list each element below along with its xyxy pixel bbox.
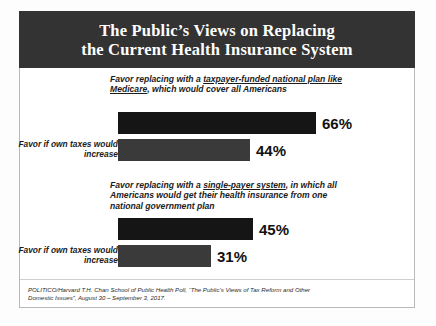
footnote-line-2: Domestic Issues”, August 30 – September … xyxy=(28,294,406,302)
chart-page: The Public’s Views on Replacing the Curr… xyxy=(0,0,436,326)
heading-prefix: Favor replacing with a xyxy=(110,74,203,84)
chart-body: Favor replacing with a taxpayer-funded n… xyxy=(20,68,414,274)
group-heading-medicare: Favor replacing with a taxpayer-funded n… xyxy=(110,74,360,95)
bar-row-single-payer-taxes: Favor if own taxes would increase 31% xyxy=(20,245,414,267)
footnote-divider xyxy=(20,279,414,280)
page-title-line-1: The Public’s Views on Replacing xyxy=(99,21,335,40)
heading-suffix: , which would cover all Americans xyxy=(147,84,287,94)
heading-prefix: Favor replacing with a xyxy=(110,180,203,190)
bar-single-payer-all xyxy=(118,218,253,240)
bar-value-medicare-all: 66% xyxy=(316,115,352,132)
group-heading-single-payer: Favor replacing with a single-payer syst… xyxy=(110,180,360,211)
source-footnote: POLITICO/Harvard T.H. Chan School of Pub… xyxy=(28,286,406,303)
bar-track xyxy=(118,139,318,161)
heading-underlined: single-payer system xyxy=(203,180,286,190)
footnote-line-1: POLITICO/Harvard T.H. Chan School of Pub… xyxy=(28,286,406,294)
row-label-single-payer-taxes: Favor if own taxes would increase xyxy=(0,245,118,265)
bar-row-medicare-taxes: Favor if own taxes would increase 44% xyxy=(20,139,414,161)
bar-track xyxy=(118,112,318,134)
bar-row-single-payer-all: 45% xyxy=(20,218,414,240)
bar-row-medicare-all: 66% xyxy=(20,112,414,134)
chart-title-banner: The Public’s Views on Replacing the Curr… xyxy=(19,11,415,68)
page-title-line-2: the Current Health Insurance System xyxy=(81,40,353,59)
bar-single-payer-taxes xyxy=(118,245,211,267)
bar-value-medicare-taxes: 44% xyxy=(250,142,286,159)
bar-medicare-all xyxy=(118,112,316,134)
row-label-medicare-taxes: Favor if own taxes would increase xyxy=(0,139,118,159)
bar-value-single-payer-taxes: 31% xyxy=(211,248,247,265)
bar-value-single-payer-all: 45% xyxy=(253,221,289,238)
bar-medicare-taxes xyxy=(118,139,250,161)
